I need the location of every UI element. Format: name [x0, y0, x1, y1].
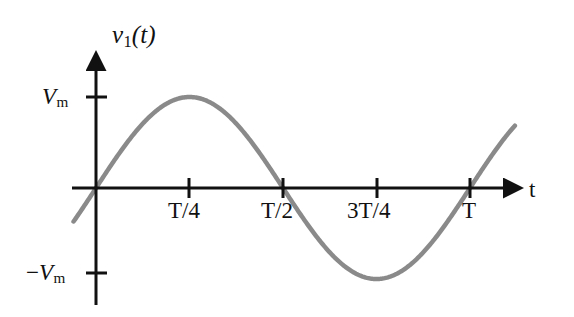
y-axis-title-sub: 1	[124, 32, 132, 51]
y-axis-title-arg: (t)	[132, 21, 156, 48]
y-tick-label-neg-vm: −Vm	[26, 261, 65, 286]
y-tick-label-vm: Vm	[42, 85, 68, 110]
x-tick-label-t-over-4: T/4	[168, 199, 200, 222]
plot-canvas	[0, 0, 574, 317]
x-tick-label-t: T	[462, 199, 476, 222]
y-tick-label-vm-var: V	[42, 84, 56, 109]
y-tick-label-vm-sub: m	[57, 93, 69, 110]
y-tick-label-neg-vm-var: V	[39, 260, 53, 285]
y-axis-title-var: v	[112, 21, 123, 48]
y-axis-title: v1(t)	[112, 22, 155, 50]
sine-waveform-figure: v1(t) Vm −Vm T/4 T/2 3T/4 T t	[0, 0, 574, 317]
x-tick-label-t-over-2: T/2	[261, 199, 293, 222]
y-tick-label-neg-vm-sub: m	[54, 269, 66, 286]
y-tick-label-neg-vm-sign: −	[26, 260, 39, 285]
x-axis-title: t	[529, 178, 535, 201]
x-tick-label-3t-over-4: 3T/4	[347, 199, 390, 222]
